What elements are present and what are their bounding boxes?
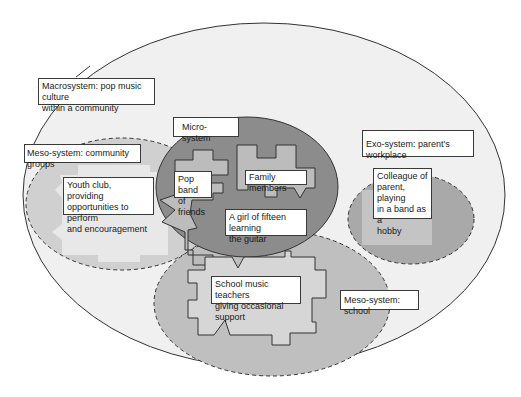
pop-band-label: Pop band of friends (174, 171, 212, 198)
micro-system-label: Micro-system (173, 117, 239, 137)
ecological-systems-diagram: Macrosystem: pop music culture within a … (0, 0, 521, 397)
meso-community-label: Meso-system: community groups (24, 144, 141, 163)
exo-system-label: Exo-system: parent's workplace (362, 130, 474, 157)
school-teachers-label: School music teachers giving occasional … (211, 276, 301, 304)
youth-club-label: Youth club, providing opportunities to p… (63, 177, 154, 215)
meso-school-label: Meso-system: school (340, 290, 419, 310)
colleague-label: Colleague of parent, playing in a band a… (373, 168, 432, 219)
macrosystem-label: Macrosystem: pop music culture within a … (38, 78, 155, 105)
family-members-label: Family members (245, 170, 307, 185)
macrosystem-leader (76, 66, 90, 77)
girl-label: A girl of fifteen learning the guitar (225, 209, 307, 236)
